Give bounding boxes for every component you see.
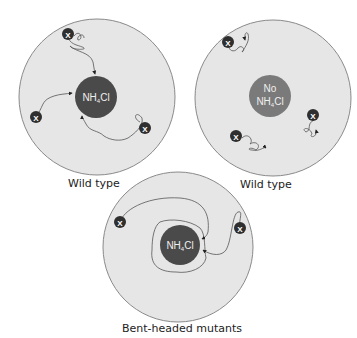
- caption-wild-type-left: Wild type: [68, 177, 120, 190]
- svg-text:X: X: [233, 133, 239, 142]
- svg-text:X: X: [310, 112, 316, 121]
- petri-dish-wild-type-attractant: NH4Cl X X X: [19, 19, 175, 175]
- caption-wild-type-right: Wild type: [240, 178, 292, 191]
- svg-text:NH4Cl: NH4Cl: [166, 240, 193, 252]
- svg-text:NH4Cl: NH4Cl: [256, 96, 283, 108]
- petri-dish-bent-headed-mutants: NH4Cl X X: [103, 172, 253, 322]
- svg-text:NH4Cl: NH4Cl: [82, 92, 109, 104]
- svg-text:X: X: [142, 125, 148, 134]
- petri-dish-wild-type-no-attractant: No NH4Cl X X X: [195, 20, 351, 176]
- svg-text:X: X: [237, 225, 243, 234]
- caption-bent-headed-mutants: Bent-headed mutants: [122, 322, 242, 335]
- svg-text:X: X: [225, 39, 231, 48]
- svg-text:No: No: [264, 83, 277, 94]
- svg-text:X: X: [33, 114, 39, 123]
- svg-text:X: X: [65, 31, 71, 40]
- svg-text:X: X: [117, 219, 123, 228]
